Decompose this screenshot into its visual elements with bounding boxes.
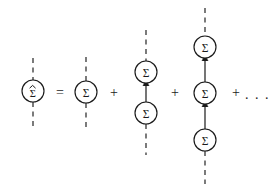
feynman-diagram: Σ = Σ + Σ Σ + bbox=[0, 0, 274, 192]
term-first-order[interactable]: Σ bbox=[75, 57, 97, 127]
sigma-label-upper: Σ bbox=[143, 67, 150, 79]
term-third-order[interactable]: Σ Σ Σ bbox=[194, 8, 216, 184]
sigma-label-bottom: Σ bbox=[202, 135, 209, 147]
equals-sign: = bbox=[56, 85, 64, 100]
plus-sign-2: + bbox=[171, 85, 179, 100]
sigma-label-lower: Σ bbox=[143, 108, 150, 120]
plus-sign-1: + bbox=[110, 85, 118, 100]
plus-sign-3: + bbox=[232, 85, 240, 100]
term-second-order[interactable]: Σ Σ bbox=[135, 30, 157, 155]
sigma-label-middle: Σ bbox=[202, 88, 209, 100]
series-ellipsis: . . . bbox=[245, 87, 270, 102]
term-full-self-energy[interactable]: Σ bbox=[22, 58, 44, 126]
figure-canvas: Σ = Σ + Σ Σ + bbox=[0, 0, 274, 192]
sigma-label: Σ bbox=[83, 87, 90, 99]
sigma-label-top: Σ bbox=[202, 42, 209, 54]
sigma-hat-label: Σ bbox=[30, 88, 36, 99]
